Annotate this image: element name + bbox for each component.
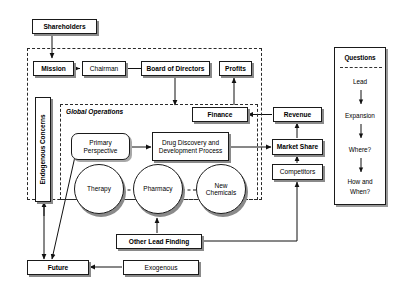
node-new-chemicals-line2: Chemicals bbox=[206, 189, 236, 196]
node-shareholders-label: Shareholders bbox=[41, 23, 87, 30]
node-mission[interactable]: Mission bbox=[33, 61, 74, 76]
node-future[interactable]: Future bbox=[27, 260, 89, 275]
node-drug-discovery-and-development-process[interactable]: Drug Discovery and Development Process bbox=[152, 132, 229, 161]
node-other-lead-finding-label: Other Lead Finding bbox=[127, 238, 191, 245]
questions-panel: Questions Lead Expansion Where? How and … bbox=[334, 47, 386, 205]
question-step-how-and: How and bbox=[335, 178, 385, 185]
node-chairman-label: Chairman bbox=[88, 65, 121, 72]
node-shareholders[interactable]: Shareholders bbox=[32, 19, 97, 34]
node-finance-label: Finance bbox=[206, 111, 235, 118]
node-endogenous-concerns-label: Endogenous Concerns bbox=[40, 115, 47, 185]
node-primary-perspective[interactable]: Primary Perspective bbox=[71, 133, 130, 160]
node-profits[interactable]: Profits bbox=[219, 61, 252, 76]
questions-panel-title: Questions bbox=[335, 54, 385, 61]
node-other-lead-finding[interactable]: Other Lead Finding bbox=[116, 234, 202, 249]
node-mission-label: Mission bbox=[39, 65, 68, 72]
node-exogenous-label: Exogenous bbox=[143, 264, 180, 271]
node-revenue-label: Revenue bbox=[282, 111, 314, 118]
node-new-chemicals-line1: New bbox=[214, 182, 227, 189]
node-endogenous-concerns[interactable]: Endogenous Concerns bbox=[35, 97, 51, 202]
node-therapy[interactable]: Therapy bbox=[74, 164, 124, 214]
question-step-expansion: Expansion bbox=[335, 112, 385, 119]
node-revenue[interactable]: Revenue bbox=[273, 107, 322, 122]
node-drug-discovery-line1: Drug Discovery and bbox=[160, 139, 221, 146]
node-market-share[interactable]: Market Share bbox=[272, 139, 323, 155]
node-competitors-label: Competitors bbox=[278, 168, 318, 175]
node-pharmacy[interactable]: Pharmacy bbox=[133, 164, 183, 214]
node-new-chemicals[interactable]: New Chemicals bbox=[196, 164, 246, 214]
node-chairman[interactable]: Chairman bbox=[82, 61, 126, 76]
question-step-lead: Lead bbox=[335, 78, 385, 85]
global-operations-label: Global Operations bbox=[66, 108, 123, 115]
node-drug-discovery-line2: Development Process bbox=[157, 147, 225, 154]
node-market-share-label: Market Share bbox=[275, 143, 320, 150]
node-primary-perspective-line1: Primary bbox=[87, 139, 113, 146]
node-future-label: Future bbox=[46, 264, 71, 271]
questions-panel-divider bbox=[340, 67, 382, 68]
question-step-where: Where? bbox=[335, 146, 385, 153]
node-primary-perspective-line2: Perspective bbox=[82, 147, 120, 154]
node-exogenous[interactable]: Exogenous bbox=[123, 260, 199, 275]
node-profits-label: Profits bbox=[223, 65, 248, 72]
node-board-of-directors-label: Board of Directors bbox=[145, 65, 207, 72]
node-finance[interactable]: Finance bbox=[192, 107, 248, 122]
node-therapy-label: Therapy bbox=[87, 185, 111, 192]
node-board-of-directors[interactable]: Board of Directors bbox=[141, 61, 210, 76]
node-pharmacy-label: Pharmacy bbox=[143, 185, 172, 192]
question-step-when: When? bbox=[335, 188, 385, 195]
node-competitors[interactable]: Competitors bbox=[272, 164, 323, 180]
diagram-canvas: Global Operations bbox=[0, 0, 400, 292]
